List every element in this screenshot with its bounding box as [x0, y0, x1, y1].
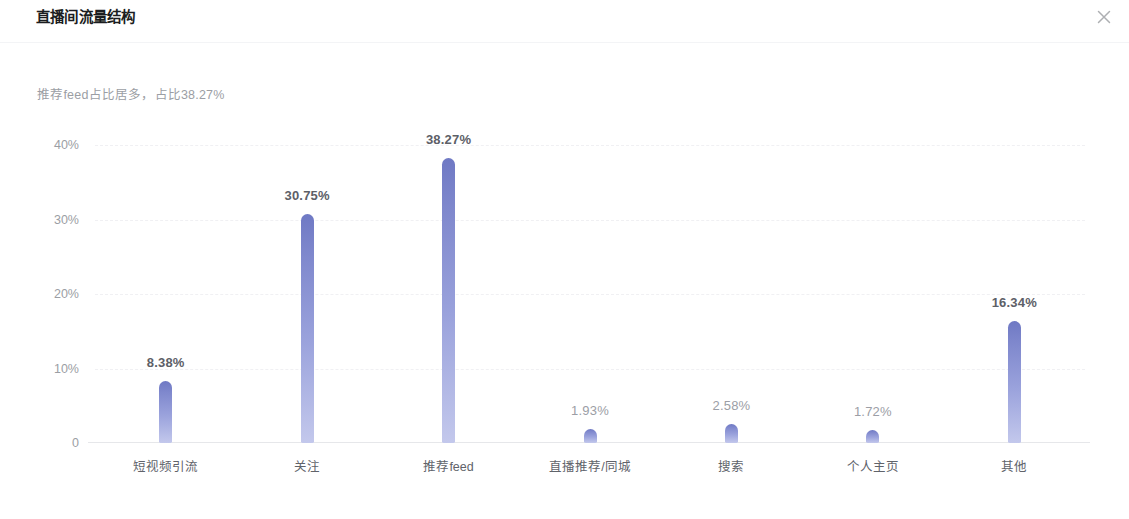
bar[interactable] — [301, 214, 314, 443]
bar[interactable] — [866, 430, 879, 443]
bar-chart: 40%30%20%10%08.38%短视频引流30.75%关注38.27%推荐f… — [0, 110, 1129, 490]
bar-value-label: 30.75% — [284, 188, 329, 203]
bar[interactable] — [159, 381, 172, 443]
gridline — [95, 145, 1085, 146]
bar-value-label: 1.93% — [571, 403, 609, 418]
gridline — [95, 220, 1085, 221]
x-axis-tick-label: 直播推荐/同城 — [549, 456, 630, 475]
bar[interactable] — [584, 429, 597, 443]
bar-value-label: 38.27% — [426, 132, 471, 147]
bar[interactable] — [725, 424, 738, 443]
header-divider — [0, 42, 1129, 43]
x-axis-tick-label: 短视频引流 — [133, 456, 198, 475]
bar-value-label: 1.72% — [854, 404, 892, 419]
gridline — [95, 294, 1085, 295]
gridline — [95, 369, 1085, 370]
x-axis-tick-label: 推荐feed — [423, 456, 473, 475]
y-axis-tick-label: 10% — [54, 362, 79, 376]
chart-subtitle: 推荐feed占比居多，占比38.27% — [37, 84, 225, 103]
bar-value-label: 2.58% — [712, 398, 750, 413]
x-axis-tick-label: 关注 — [294, 456, 320, 475]
page-title: 直播间流量结构 — [36, 5, 135, 26]
bar[interactable] — [442, 158, 455, 443]
y-axis-tick-label: 40% — [54, 138, 79, 152]
y-axis-tick-label: 20% — [54, 287, 79, 301]
plot-area: 40%30%20%10%08.38%短视频引流30.75%关注38.27%推荐f… — [95, 145, 1085, 443]
x-axis-tick-label: 个人主页 — [847, 456, 899, 475]
close-icon[interactable] — [1093, 6, 1115, 28]
bar-value-label: 8.38% — [147, 355, 185, 370]
bar[interactable] — [1008, 321, 1021, 443]
y-axis-tick-label: 30% — [54, 213, 79, 227]
x-axis-tick-label: 搜索 — [718, 456, 744, 475]
bar-value-label: 16.34% — [992, 295, 1037, 310]
x-axis-tick-label: 其他 — [1001, 456, 1027, 475]
y-axis-tick-label: 0 — [72, 436, 79, 450]
panel-header: 直播间流量结构 — [0, 0, 1129, 43]
